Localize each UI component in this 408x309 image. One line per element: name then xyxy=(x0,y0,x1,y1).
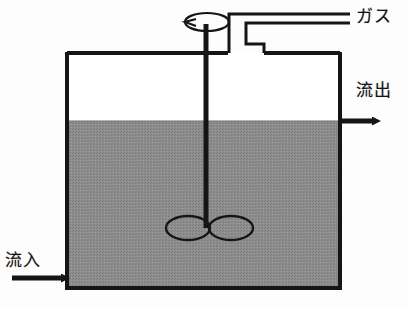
diagram-canvas xyxy=(0,0,408,309)
gas-inlet-pipe xyxy=(229,14,350,53)
inflow-label: 流入 xyxy=(5,252,41,269)
outflow-label: 流出 xyxy=(356,82,392,99)
reactor-diagram: ガス 流出 流入 xyxy=(0,0,408,309)
gas-label: ガス xyxy=(356,8,392,25)
